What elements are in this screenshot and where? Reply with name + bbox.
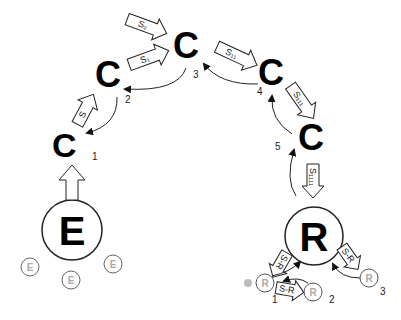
- svg-text:5: 5: [275, 141, 281, 152]
- node-c5: C 5: [275, 117, 324, 158]
- small-r-1: R 1: [256, 274, 278, 305]
- svg-text:E: E: [68, 275, 75, 286]
- small-e-1: E: [21, 258, 39, 276]
- feedback-arrow-r-to-c5: [290, 150, 296, 196]
- feedback-arrow-c3-to-c2: [125, 68, 186, 89]
- svg-text:E: E: [59, 209, 86, 253]
- block-arrow-s1111: S₁₁₁₁: [302, 164, 324, 198]
- node-c2: C 2: [95, 54, 131, 105]
- svg-text:2: 2: [125, 94, 131, 105]
- svg-text:3: 3: [193, 69, 199, 80]
- block-arrow-s1: S₁: [125, 40, 172, 75]
- node-r: R: [285, 207, 343, 265]
- svg-text:E: E: [27, 262, 34, 273]
- svg-text:1: 1: [92, 151, 98, 162]
- feedback-arrow-c5-to-c4: [272, 96, 292, 134]
- node-c4: C 4: [257, 52, 284, 97]
- svg-text:4: 4: [257, 86, 263, 97]
- node-e: E: [42, 200, 102, 260]
- block-arrow-s2: S₂: [123, 9, 170, 44]
- block-arrow-s11: S₁₁: [212, 37, 261, 76]
- small-e-2: E: [62, 271, 80, 289]
- svg-text:C: C: [52, 126, 77, 164]
- block-arrow-s: S: [68, 89, 103, 129]
- block-arrow-sr2: S-R: [274, 278, 305, 303]
- block-arrow-e-to-c1: [59, 165, 85, 200]
- svg-text:S₁₁₁₁: S₁₁₁₁: [308, 168, 318, 186]
- svg-text:R: R: [309, 287, 317, 298]
- svg-text:3: 3: [380, 286, 386, 297]
- small-r-2: R 2: [304, 283, 335, 305]
- svg-text:R: R: [261, 278, 269, 289]
- pathway-diagram: C 1 C 2 C 3 C 4 C 5 E R E E E R: [0, 0, 401, 320]
- svg-text:E: E: [110, 259, 117, 270]
- small-r-3: R 3: [360, 269, 386, 297]
- node-c3: C 3: [173, 25, 199, 80]
- svg-text:1: 1: [272, 294, 278, 305]
- gray-dot: [244, 279, 252, 287]
- svg-text:C: C: [95, 54, 121, 95]
- svg-text:R: R: [365, 273, 373, 284]
- svg-text:C: C: [173, 25, 199, 66]
- svg-text:2: 2: [329, 294, 335, 305]
- small-e-3: E: [104, 255, 122, 273]
- svg-text:R: R: [300, 215, 329, 259]
- svg-text:C: C: [298, 117, 324, 158]
